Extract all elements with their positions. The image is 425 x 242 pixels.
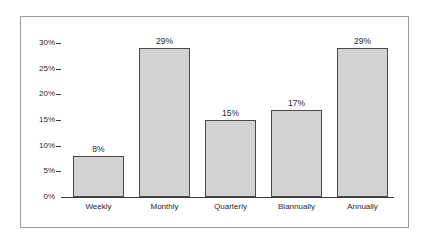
y-tick-label-10: 10% [23, 141, 55, 150]
category-label-quarterly: Quarterly [205, 202, 256, 212]
bar-value-quarterly: 15% [205, 108, 256, 118]
bar-weekly[interactable] [73, 156, 124, 197]
category-label-weekly: Weekly [73, 202, 124, 212]
chart-page: 30% 25% 20% 15% 10% 5% 0% 8% 29% 15% 17%… [0, 0, 425, 242]
bar-biannually[interactable] [271, 110, 322, 197]
y-tick-label-25: 25% [23, 64, 55, 73]
x-axis-line [61, 197, 394, 198]
category-label-monthly: Monthly [139, 202, 190, 212]
bar-value-weekly: 8% [73, 144, 124, 154]
bar-monthly[interactable] [139, 48, 190, 197]
bar-value-biannually: 17% [271, 98, 322, 108]
bar-quarterly[interactable] [205, 120, 256, 197]
y-tick-label-30: 30% [23, 38, 55, 47]
bar-value-annually: 29% [337, 36, 388, 46]
y-tick-label-20: 20% [23, 89, 55, 98]
plot-area [61, 43, 391, 197]
category-label-biannually: Biannually [269, 202, 324, 212]
y-tick-label-0: 0% [23, 192, 55, 201]
bar-value-monthly: 29% [139, 36, 190, 46]
figure-frame: 30% 25% 20% 15% 10% 5% 0% 8% 29% 15% 17%… [20, 16, 409, 228]
y-tick-label-5: 5% [23, 166, 55, 175]
y-tick-label-15: 15% [23, 115, 55, 124]
category-label-annually: Annually [337, 202, 388, 212]
bar-annually[interactable] [337, 48, 388, 197]
